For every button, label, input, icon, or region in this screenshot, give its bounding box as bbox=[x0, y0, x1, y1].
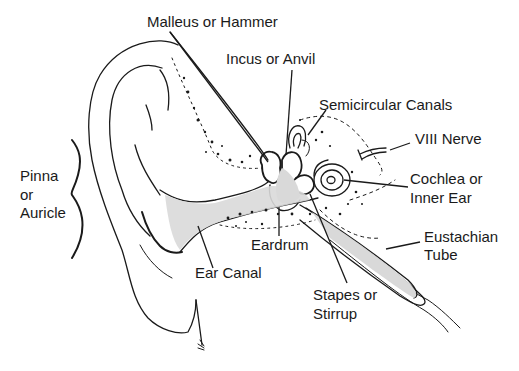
helix-inner bbox=[110, 66, 162, 236]
label-semicircular-canals: Semicircular Canals bbox=[319, 96, 452, 113]
semicircular-canals-shape bbox=[289, 126, 306, 148]
label-viii-nerve: VIII Nerve bbox=[415, 130, 482, 147]
label-cochlea-line1: Cochlea or bbox=[410, 170, 483, 187]
label-pinna-line3: Auricle bbox=[20, 204, 66, 221]
leader-semicircular bbox=[308, 110, 326, 135]
ear-anatomy-diagram: Malleus or Hammer Incus or Anvil Semicir… bbox=[0, 0, 519, 371]
label-pinna-line2: or bbox=[20, 186, 33, 203]
label-stapes-line1: Stapes or bbox=[313, 286, 377, 303]
label-cochlea-line2: Inner Ear bbox=[410, 189, 472, 206]
leader-eustachian bbox=[386, 242, 420, 249]
label-eustachian-line2: Tube bbox=[424, 246, 458, 263]
pinna-brace bbox=[71, 140, 82, 258]
label-incus: Incus or Anvil bbox=[226, 50, 315, 67]
label-ear-canal: Ear Canal bbox=[195, 264, 262, 281]
label-stapes-line2: Stirrup bbox=[313, 305, 357, 322]
label-eardrum: Eardrum bbox=[251, 236, 309, 253]
cochlea-inner bbox=[321, 170, 343, 190]
viii-nerve-shape bbox=[358, 148, 386, 160]
leader-ear-canal bbox=[198, 226, 213, 268]
leader-cochlea bbox=[344, 180, 408, 187]
leader-nerve bbox=[390, 143, 410, 150]
label-malleus: Malleus or Hammer bbox=[147, 13, 278, 30]
label-pinna-line1: Pinna bbox=[20, 167, 58, 184]
pinna-outline bbox=[89, 41, 196, 333]
label-eustachian-line1: Eustachian bbox=[424, 228, 498, 245]
